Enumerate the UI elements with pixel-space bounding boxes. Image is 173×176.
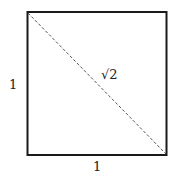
left-side-label: 1 — [9, 78, 17, 91]
bottom-side-label: 1 — [93, 160, 101, 173]
diagonal-line — [28, 13, 166, 154]
square-diagram — [0, 0, 173, 176]
diagonal-label: √2 — [101, 68, 118, 81]
unit-square — [28, 12, 167, 155]
